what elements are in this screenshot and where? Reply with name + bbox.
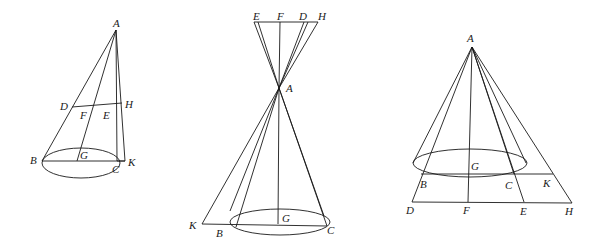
- figure-3: A G B C K D F E H: [405, 32, 574, 217]
- fig1-line-AC: [116, 30, 117, 161]
- fig2-line-A-left-tangent: [230, 88, 279, 211]
- fig2-line-FA: [279, 22, 280, 88]
- fig2-line-KC: [202, 224, 327, 226]
- fig2-line-D2A: [279, 22, 308, 88]
- fig2-line-D1A: [279, 22, 304, 88]
- fig2-base-circle: [230, 209, 330, 235]
- geometry-diagrams: A D F E H B G C K E F D H A K B: [0, 0, 597, 245]
- fig1-line-AG: [77, 30, 116, 161]
- fig2-label-K: K: [188, 219, 197, 231]
- fig2-label-G: G: [282, 212, 290, 224]
- fig1-label-K: K: [127, 156, 136, 168]
- fig2-line-AB: [236, 88, 279, 227]
- fig2-line-AG: [278, 88, 279, 224]
- fig2-line-AC: [279, 88, 327, 226]
- fig1-label-D: D: [59, 100, 68, 112]
- fig2-label-F: F: [276, 10, 284, 22]
- fig3-label-D: D: [405, 204, 414, 216]
- fig3-label-F: F: [462, 204, 470, 216]
- fig3-label-C: C: [505, 179, 513, 191]
- fig3-line-A-right-tangent: [472, 47, 526, 163]
- fig1-label-A: A: [112, 17, 120, 29]
- fig2-line-AK: [202, 88, 279, 224]
- fig2-label-E: E: [252, 10, 260, 22]
- fig2-line-E1A: [254, 22, 279, 88]
- fig1-label-F: F: [79, 109, 87, 121]
- fig3-label-B: B: [420, 178, 427, 190]
- figure-2: E F D H A K B G C: [188, 10, 335, 239]
- fig1-line-AK: [116, 30, 125, 161]
- fig2-label-A: A: [285, 82, 293, 94]
- fig1-label-E: E: [102, 109, 110, 121]
- fig1-label-G: G: [80, 149, 88, 161]
- fig1-line-DH: [72, 103, 122, 107]
- fig3-label-H: H: [564, 205, 574, 217]
- figure-1: A D F E H B G C K: [30, 17, 136, 178]
- fig2-line-E2A: [258, 22, 279, 88]
- fig1-label-C: C: [112, 163, 120, 175]
- fig3-label-G: G: [471, 160, 479, 172]
- fig2-label-B: B: [216, 227, 223, 239]
- fig2-label-D: D: [298, 10, 307, 22]
- fig2-label-C: C: [327, 224, 335, 236]
- fig3-line-AE: [472, 47, 524, 202]
- fig2-line-HA: [279, 22, 318, 88]
- fig3-line-A-left-tangent: [413, 47, 472, 163]
- fig3-label-K: K: [542, 177, 551, 189]
- fig1-label-H: H: [124, 98, 134, 110]
- fig3-line-DH: [412, 202, 572, 203]
- fig1-label-B: B: [30, 154, 37, 166]
- fig3-label-A: A: [466, 32, 474, 44]
- fig3-label-E: E: [519, 205, 527, 217]
- fig1-line-AB: [42, 30, 116, 161]
- fig2-label-H: H: [317, 10, 327, 22]
- fig3-line-AH: [472, 47, 572, 203]
- fig3-line-AF: [468, 47, 472, 202]
